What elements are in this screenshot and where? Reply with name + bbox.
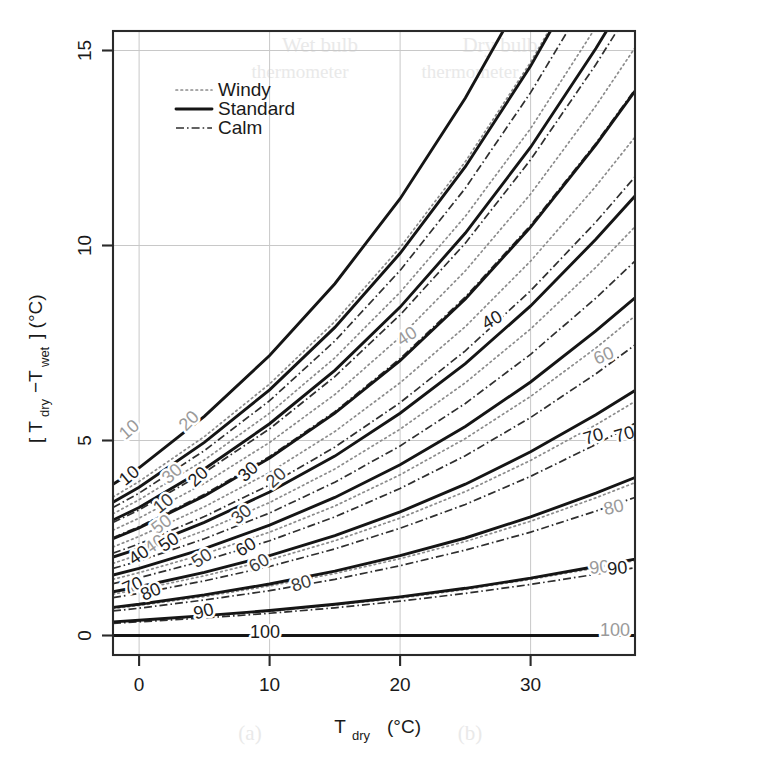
contour-label-50-13: 50 [188, 544, 216, 572]
contour-label-20-6: 20 [262, 463, 290, 491]
svg-text:dry: dry [352, 728, 371, 743]
contour-value-labels: 1010202010103030202030302020101030305050… [115, 306, 637, 642]
y-tick-label: 15 [74, 40, 95, 61]
chart-canvas: Dry bulbWet bulbthermometerthermometer(b… [0, 0, 764, 757]
contour-label-90-19: 90 [191, 599, 215, 623]
svg-text:−T: −T [25, 370, 46, 393]
contour-standard-90 [113, 559, 635, 622]
svg-text:wet: wet [37, 346, 52, 368]
psychrometric-contour-chart: Dry bulbWet bulbthermometerthermometer(b… [0, 0, 764, 757]
svg-text:(°C): (°C) [387, 716, 421, 737]
svg-text:] (°C): ] (°C) [25, 294, 46, 339]
svg-text:(b): (b) [458, 721, 483, 745]
contour-series-calm [113, 0, 635, 636]
x-tick-label: 10 [259, 674, 280, 695]
contour-label-30-5: 30 [234, 457, 262, 485]
contour-windy-60 [113, 316, 635, 579]
y-tick-label: 5 [74, 435, 95, 446]
contour-calm-70 [113, 423, 635, 597]
contour-label-100-29: 100 [600, 620, 630, 640]
y-tick-label: 10 [74, 235, 95, 256]
x-tick-label: 0 [134, 674, 145, 695]
legend: WindyStandardCalm [176, 79, 295, 138]
legend-label-standard: Standard [218, 98, 295, 119]
x-tick-label: 30 [520, 674, 541, 695]
contour-label-80-18: 80 [289, 571, 314, 596]
contour-label-90-28: 90 [606, 557, 628, 579]
contour-label-80-26: 80 [602, 495, 626, 519]
contour-label-70-25: 70 [612, 422, 637, 447]
svg-text:(a): (a) [238, 721, 261, 745]
contour-windy-30 [113, 48, 635, 530]
contour-label-70-24: 70 [581, 424, 606, 449]
contour-series-windy [113, 0, 635, 636]
svg-text:dry: dry [37, 398, 52, 417]
svg-text:[ T: [ T [25, 421, 46, 443]
legend-label-windy: Windy [218, 79, 271, 100]
contour-lines [113, 0, 635, 636]
x-tick-label: 20 [390, 674, 411, 695]
contour-label-30-8: 30 [227, 500, 255, 528]
svg-text:T: T [334, 716, 346, 737]
contour-windy-90 [113, 561, 635, 623]
svg-text:Wet bulb: Wet bulb [282, 33, 358, 57]
contour-series-standard [113, 0, 635, 636]
y-tick-label: 0 [74, 630, 95, 641]
contour-standard-30 [113, 0, 635, 520]
contour-label-20-1: 20 [175, 407, 203, 435]
svg-text:thermometer: thermometer [421, 61, 519, 82]
y-axis-title: [ Tdry−Twet] (°C) [25, 294, 52, 443]
x-axis-title: Tdry(°C) [334, 716, 421, 743]
contour-label-100-20: 100 [250, 622, 280, 642]
contour-label-60-23: 60 [591, 342, 617, 368]
legend-label-calm: Calm [218, 117, 262, 138]
